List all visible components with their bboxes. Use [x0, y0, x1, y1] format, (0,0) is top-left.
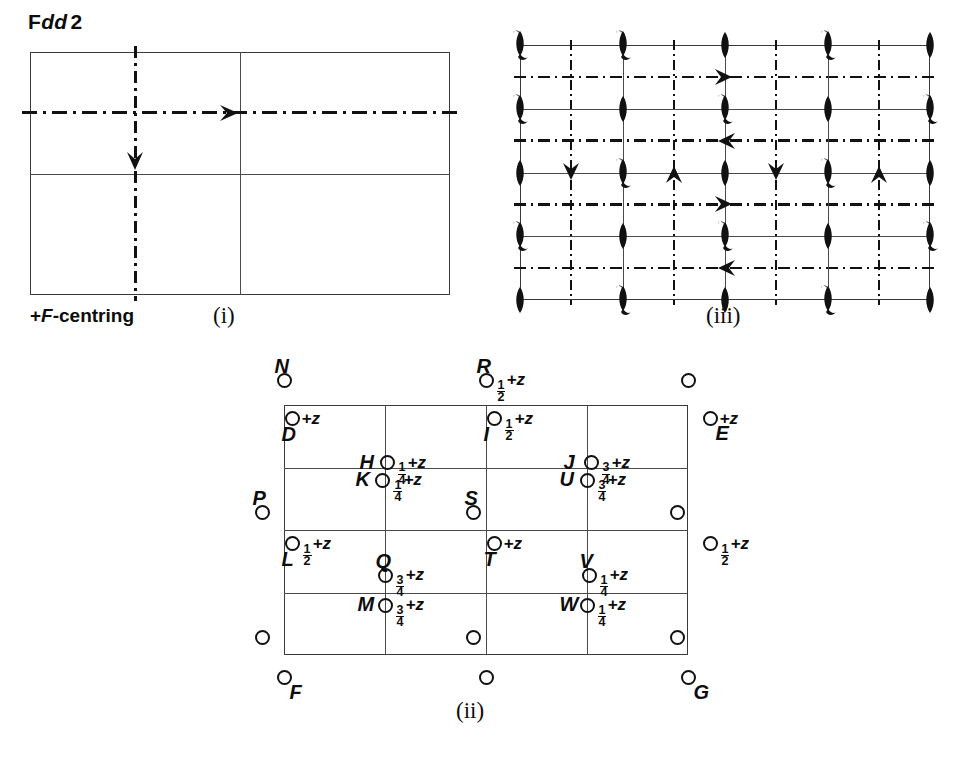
height-label: 14+z — [599, 566, 628, 599]
position-letter: S — [464, 488, 477, 508]
fraction: 12 — [497, 380, 506, 404]
height-plus-z: +z — [405, 595, 423, 614]
position-letter: F — [290, 682, 302, 702]
position-circle — [580, 598, 595, 613]
height-label: 12+z — [496, 371, 525, 404]
fraction: 12 — [505, 419, 514, 443]
height-plus-z: +z — [607, 470, 625, 489]
height-plus-z: +z — [611, 453, 629, 472]
height-label: +z — [302, 410, 320, 427]
position-letter: U — [560, 469, 574, 489]
cell-divider-horizontal-ii — [284, 530, 688, 531]
position-letter: W — [560, 594, 579, 614]
height-plus-z: +z — [515, 409, 533, 428]
position-circle — [670, 630, 685, 645]
height-plus-z: +z — [609, 565, 627, 584]
position-letter: R — [477, 356, 491, 376]
position-circle — [466, 630, 481, 645]
fraction: 12 — [721, 544, 730, 568]
height-label: 12+z — [720, 535, 749, 568]
height-label: 34+z — [597, 471, 626, 504]
height-plus-z: +z — [403, 470, 421, 489]
position-circle — [580, 473, 595, 488]
fraction: 14 — [393, 480, 402, 504]
fraction: 34 — [598, 480, 607, 504]
diagram-ii-layer: +zD14+zH12+zI34+zJ14+zK34+zU+zS14+z12+zL… — [0, 0, 955, 758]
height-label: 14+z — [597, 596, 626, 629]
caption-ii: (ii) — [456, 698, 484, 724]
position-letter: K — [355, 469, 369, 489]
height-plus-z: +z — [504, 534, 522, 553]
position-letter: G — [694, 682, 710, 702]
position-circle — [380, 455, 395, 470]
position-letter: E — [716, 423, 729, 443]
height-label: 12+z — [302, 535, 331, 568]
height-plus-z: +z — [405, 565, 423, 584]
height-plus-z: +z — [407, 453, 425, 472]
position-circle — [584, 455, 599, 470]
height-label: 14+z — [392, 471, 421, 504]
position-letter: Q — [376, 551, 392, 571]
fraction: 34 — [396, 605, 405, 629]
position-letter: P — [253, 488, 266, 508]
height-plus-z: +z — [506, 370, 524, 389]
height-label: +z — [504, 535, 522, 552]
position-circle — [681, 373, 696, 388]
fraction: 12 — [303, 544, 312, 568]
position-circle — [375, 473, 390, 488]
height-label: 34+z — [395, 566, 424, 599]
position-letter: L — [282, 549, 294, 569]
height-label: 34+z — [395, 596, 424, 629]
height-label: 12+z — [504, 410, 533, 443]
position-letter: I — [484, 424, 490, 444]
position-circle — [703, 536, 718, 551]
height-plus-z: +z — [607, 595, 625, 614]
position-letter: V — [580, 551, 593, 571]
position-letter: M — [358, 594, 375, 614]
position-circle — [670, 505, 685, 520]
height-plus-z: +z — [313, 534, 331, 553]
height-plus-z: +z — [730, 534, 748, 553]
position-circle — [479, 670, 494, 685]
fraction: 14 — [598, 605, 607, 629]
height-plus-z: +z — [302, 409, 320, 428]
position-letter: D — [282, 424, 296, 444]
position-circle — [378, 598, 393, 613]
position-circle — [255, 630, 270, 645]
position-letter: N — [275, 356, 289, 376]
position-letter: T — [484, 549, 496, 569]
